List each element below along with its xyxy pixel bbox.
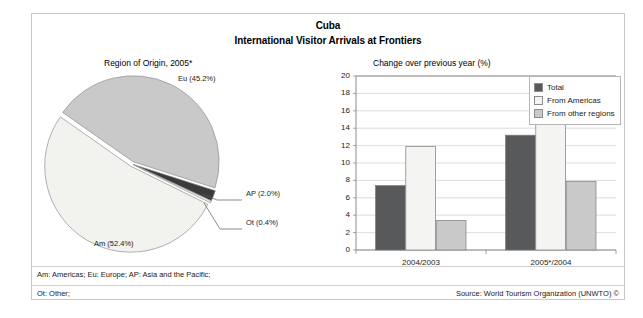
y-tick-label: 14	[332, 124, 350, 132]
pie-chart-canvas	[34, 72, 324, 264]
y-tick-label: 16	[332, 107, 350, 115]
bar-total-20042003[interactable]	[376, 186, 406, 250]
pie-slice-label-am: Am (52.4%)	[94, 239, 134, 248]
bar-from-americas-20042003[interactable]	[406, 147, 436, 251]
bar-chart: 20181614121086420 2004/20032005*/2004 To…	[330, 72, 624, 272]
pie-chart: Eu (45.2%) AP (2.0%) Ot (0.4%) Am (52.4%…	[34, 72, 324, 264]
figure-title: Cuba	[32, 20, 624, 31]
y-tick-label: 0	[332, 246, 350, 254]
pie-slice-label-ot: Ot (0.4%)	[246, 218, 278, 227]
legend-swatch-from-other-regions	[534, 109, 543, 118]
pie-slice-label-ap: AP (2.0%)	[246, 189, 280, 198]
bar-chart-legend: Total From Americas From other regions	[529, 76, 621, 125]
footer-divider-bottom	[32, 285, 624, 286]
legend-item-total[interactable]: Total	[534, 81, 615, 94]
footer-divider-top	[32, 266, 624, 267]
y-tick-label: 6	[332, 194, 350, 202]
footnote-abbreviations: Am: Americas; Eu: Europe; AP: Asia and t…	[37, 270, 210, 279]
pie-leader-ot	[204, 203, 242, 229]
pie-chart-title: Region of Origin, 2005*	[104, 58, 192, 68]
y-tick-label: 20	[332, 72, 350, 80]
legend-swatch-from-americas	[534, 96, 543, 105]
chart-figure-frame: Cuba International Visitor Arrivals at F…	[31, 13, 625, 300]
footnote-other: Ot: Other;	[37, 289, 70, 298]
bar-total-20052004[interactable]	[506, 135, 536, 250]
legend-label-total: Total	[547, 83, 564, 92]
figure-subtitle: International Visitor Arrivals at Fronti…	[32, 35, 624, 46]
pie-slice-label-eu: Eu (45.2%)	[178, 74, 216, 83]
legend-item-from-americas[interactable]: From Americas	[534, 94, 615, 107]
y-tick-label: 2	[332, 229, 350, 237]
bar-from-other-regions-20052004[interactable]	[566, 181, 596, 250]
y-tick-label: 8	[332, 176, 350, 184]
y-tick-label: 4	[332, 211, 350, 219]
y-tick-label: 12	[332, 142, 350, 150]
y-tick-label: 18	[332, 89, 350, 97]
legend-item-from-other-regions[interactable]: From other regions	[534, 107, 615, 120]
legend-label-from-americas: From Americas	[547, 96, 601, 105]
bar-chart-title: Change over previous year (%)	[373, 58, 491, 68]
bar-from-other-regions-20042003[interactable]	[436, 220, 466, 250]
y-tick-label: 10	[332, 159, 350, 167]
legend-label-from-other-regions: From other regions	[547, 109, 615, 118]
legend-swatch-total	[534, 83, 543, 92]
source-credit: Source: World Tourism Organization (UNWT…	[456, 289, 619, 298]
